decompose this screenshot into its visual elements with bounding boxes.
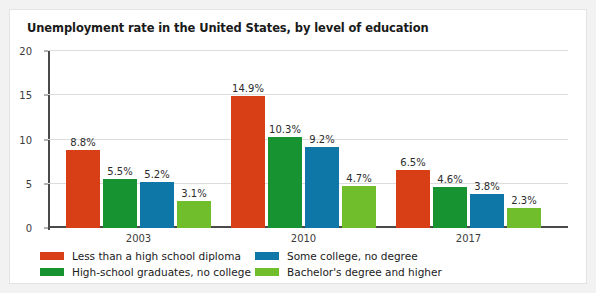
chart-page: Unemployment rate in the United States, …	[0, 0, 596, 293]
x-axis-label-2010: 2010	[231, 233, 376, 244]
y-tick-label-15: 15	[0, 90, 32, 101]
bar-value-label: 3.1%	[181, 188, 206, 199]
bar-value-label: 4.7%	[346, 173, 371, 184]
bar-value-label: 9.2%	[309, 134, 334, 145]
x-axis-label-2017: 2017	[396, 233, 541, 244]
bar-value-label: 8.8%	[70, 137, 95, 148]
y-tick-mark-10	[44, 139, 48, 140]
bar[interactable]: 10.3%	[268, 137, 302, 228]
legend-swatch-icon	[40, 268, 64, 276]
chart-title: Unemployment rate in the United States, …	[27, 21, 429, 35]
legend-label: High-school graduates, no college	[72, 266, 251, 278]
legend-item[interactable]: Bachelor's degree and higher	[255, 266, 442, 278]
y-tick-label-0: 0	[0, 223, 32, 234]
bar-value-label: 3.8%	[474, 181, 499, 192]
x-axis-label-2003: 2003	[66, 233, 211, 244]
legend-label: Bachelor's degree and higher	[287, 266, 442, 278]
bar-group-2003: 8.8%5.5%5.2%3.1%	[66, 51, 216, 228]
chart-legend: Less than a high school diplomaSome coll…	[40, 248, 470, 280]
bar-group-2017: 6.5%4.6%3.8%2.3%	[396, 51, 546, 228]
bar[interactable]: 5.2%	[140, 182, 174, 228]
bar[interactable]: 2.3%	[507, 208, 541, 228]
y-tick-mark-0	[44, 228, 48, 229]
legend-swatch-icon	[255, 268, 279, 276]
bar[interactable]: 3.8%	[470, 194, 504, 228]
bar-value-label: 10.3%	[269, 124, 301, 135]
legend-item[interactable]: Some college, no degree	[255, 250, 418, 262]
legend-row: High-school graduates, no collegeBachelo…	[40, 264, 470, 280]
bar-value-label: 5.2%	[144, 169, 169, 180]
y-tick-label-10: 10	[0, 134, 32, 145]
legend-label: Less than a high school diploma	[72, 250, 241, 262]
bar[interactable]: 5.5%	[103, 179, 137, 228]
bar-value-label: 14.9%	[232, 83, 264, 94]
legend-label: Some college, no degree	[287, 250, 418, 262]
bar[interactable]: 6.5%	[396, 170, 430, 228]
bar[interactable]: 4.6%	[433, 187, 467, 228]
bar-group-2010: 14.9%10.3%9.2%4.7%	[231, 51, 381, 228]
y-tick-label-5: 5	[0, 178, 32, 189]
legend-item[interactable]: Less than a high school diploma	[40, 250, 255, 262]
bar[interactable]: 14.9%	[231, 96, 265, 228]
bar[interactable]: 8.8%	[66, 150, 100, 228]
bar-value-label: 2.3%	[511, 195, 536, 206]
bar[interactable]: 9.2%	[305, 147, 339, 228]
bar[interactable]: 3.1%	[177, 201, 211, 228]
legend-swatch-icon	[255, 252, 279, 260]
bar-value-label: 6.5%	[400, 157, 425, 168]
legend-item[interactable]: High-school graduates, no college	[40, 266, 255, 278]
plot-area: 8.8%5.5%5.2%3.1%14.9%10.3%9.2%4.7%6.5%4.…	[48, 51, 568, 228]
y-tick-mark-15	[44, 95, 48, 96]
y-tick-label-20: 20	[0, 46, 32, 57]
bar-value-label: 5.5%	[107, 166, 132, 177]
legend-row: Less than a high school diplomaSome coll…	[40, 248, 470, 264]
y-tick-mark-20	[44, 51, 48, 52]
bar[interactable]: 4.7%	[342, 186, 376, 228]
y-tick-mark-5	[44, 183, 48, 184]
bar-value-label: 4.6%	[437, 174, 462, 185]
legend-swatch-icon	[40, 252, 64, 260]
